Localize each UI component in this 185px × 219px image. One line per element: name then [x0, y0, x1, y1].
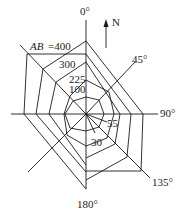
axis-45	[86, 62, 135, 114]
label-30: 30	[91, 136, 103, 148]
label-55: 55	[107, 117, 119, 129]
label-400: =400	[48, 40, 71, 52]
label-north: N	[112, 16, 120, 28]
label-0-deg: 0°	[80, 5, 90, 17]
label-300: 300	[59, 58, 76, 70]
north-arrow-icon	[104, 19, 109, 48]
label-ab: AB	[29, 40, 44, 52]
contour-300	[36, 41, 131, 180]
axis-225	[28, 114, 86, 172]
label-100: 100	[69, 83, 86, 95]
polar-diagram: 0° N 45° 90° 135° 180° AB =400 300 225 1…	[0, 0, 185, 219]
label-180-deg: 180°	[77, 198, 98, 210]
label-90-deg: 90°	[160, 107, 175, 119]
label-45-deg: 45°	[132, 53, 147, 65]
label-135-deg: 135°	[152, 176, 173, 188]
